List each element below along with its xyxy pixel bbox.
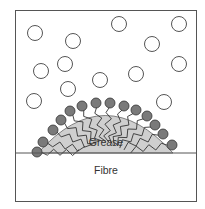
free-molecule [66,34,81,49]
free-molecule [157,95,172,110]
hydrophilic-head [38,137,48,147]
free-molecule [172,57,187,72]
free-molecule [145,37,160,52]
free-molecule [28,26,43,41]
hydrophilic-head [150,120,160,130]
hydrophilic-head [65,106,75,116]
free-molecule [112,17,127,32]
hydrophilic-head [131,105,141,115]
fibre-label: Fibre [94,164,118,176]
free-molecule [58,57,73,72]
hydrophilic-head [158,129,168,139]
hydrophilic-head [48,125,58,135]
hydrophilic-head [105,98,115,108]
free-molecule [61,82,76,97]
free-molecule [27,94,42,109]
hydrophilic-head [77,101,87,111]
hydrophilic-head [91,98,101,108]
free-molecule [93,73,108,88]
free-molecule [172,17,187,32]
detergency-diagram: Grease Fibre [0,0,205,209]
grease-label: Grease [89,136,124,148]
hydrophilic-head [119,101,129,111]
free-molecule [129,67,144,82]
free-molecule [34,64,49,79]
hydrophilic-head [142,111,152,121]
hydrophilic-head [167,140,177,150]
hydrophilic-head [56,115,66,125]
hydrophilic-head [32,147,42,157]
